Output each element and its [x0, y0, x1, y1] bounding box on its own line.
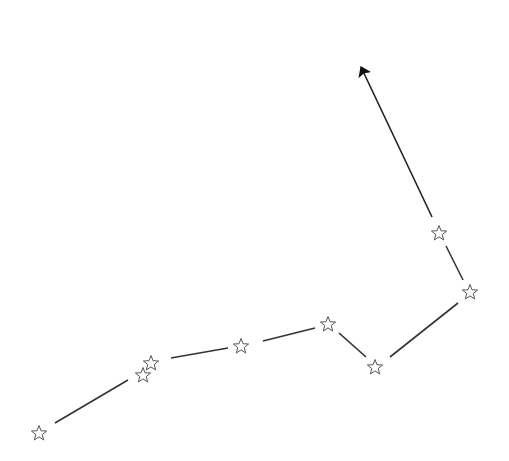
star-icon — [30, 424, 48, 442]
connector-line — [263, 328, 315, 341]
star-icon — [430, 224, 448, 242]
star-icon — [319, 315, 337, 333]
direction-arrow — [361, 67, 432, 217]
star-icon — [461, 283, 479, 301]
connector-line — [171, 348, 228, 358]
star-icon — [142, 354, 160, 372]
connector-line — [339, 333, 366, 357]
star-icon — [366, 358, 384, 376]
connector-line — [390, 303, 458, 357]
connector-line — [55, 380, 128, 423]
star-icon — [232, 337, 250, 355]
connector-line — [446, 246, 463, 280]
connector-lines — [55, 246, 463, 423]
